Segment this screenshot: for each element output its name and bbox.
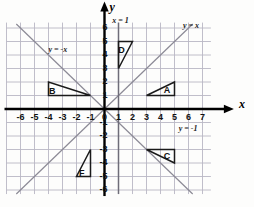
y-tick-label: -3	[99, 145, 108, 154]
x-tick-label: -4	[43, 113, 54, 122]
y-tick-label: -6	[99, 185, 108, 194]
y-tick-label: 5	[99, 37, 108, 46]
y-tick-label: 2	[99, 77, 108, 86]
line-label-x-equals-1: x = 1	[112, 17, 129, 25]
y-tick-label: -4	[99, 158, 108, 167]
triangle-label-b: B	[49, 87, 56, 96]
y-axis-title: y	[110, 1, 115, 13]
triangle-label-a: A	[164, 86, 171, 95]
y-tick-label: 4	[99, 50, 108, 59]
triangle-label-f: F	[79, 169, 85, 178]
line-label-y-equals-neg-x: y = -x	[49, 46, 68, 54]
x-tick-label: 4	[155, 113, 166, 122]
line-label-y-equals-x: y = x	[183, 22, 199, 30]
y-tick-label: 1	[99, 91, 108, 100]
x-tick-label: 5	[169, 113, 180, 122]
y-tick-label: 6	[99, 23, 108, 32]
triangle-label-d: D	[118, 46, 125, 55]
x-tick-label: -3	[57, 113, 68, 122]
y-tick-label: -2	[99, 131, 108, 140]
coordinate-plane-svg	[0, 0, 254, 207]
triangle-label-c: C	[164, 152, 171, 161]
x-tick-label: 7	[197, 113, 208, 122]
x-tick-label: -5	[29, 113, 40, 122]
x-tick-label: -6	[15, 113, 26, 122]
coordinate-plane-figure: -6-5-4-3-2-101234567654321-1-2-3-4-5-6AB…	[0, 0, 254, 207]
x-tick-label: 1	[113, 113, 124, 122]
x-tick-label: 3	[141, 113, 152, 122]
x-tick-label: -2	[71, 113, 82, 122]
y-tick-label: -1	[99, 118, 108, 127]
x-tick-label: 2	[127, 113, 138, 122]
y-axis-arrowhead	[100, 2, 108, 12]
x-axis-title: x	[239, 98, 245, 110]
y-tick-label: 3	[99, 64, 108, 73]
line-label-y-equals-neg-1: y = -1	[179, 125, 198, 133]
x-tick-label: 6	[183, 113, 194, 122]
x-axis-arrowhead	[224, 105, 234, 113]
x-tick-label: -1	[85, 113, 96, 122]
y-tick-label: -5	[99, 172, 108, 181]
